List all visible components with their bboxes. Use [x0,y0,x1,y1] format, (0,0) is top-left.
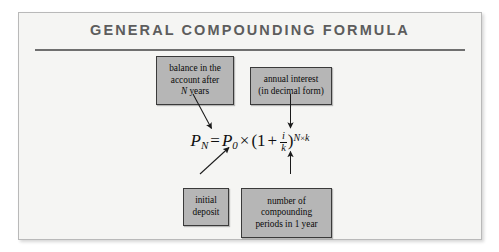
formula-exponent: N×k [294,132,310,143]
callout-deposit-line-1: initial [195,195,217,207]
formula-equals: = [208,131,222,150]
formula-rate-fraction: ik [280,131,287,153]
figure-title: GENERAL COMPOUNDING FORMULA [19,22,481,38]
formula-pn-base: P [191,131,201,150]
callout-balance-line-2: account after [171,75,219,87]
callout-rate-line-2: (in decimal form) [258,86,324,98]
callout-balance-line-3: N years [181,86,209,98]
callout-periods-line-2: compounding [261,207,312,219]
formula-fraction-denominator: k [280,143,287,154]
title-divider [35,49,465,51]
figure-frame: GENERAL COMPOUNDING FORMULA balance in t… [18,12,482,240]
callout-periods-line-3: periods in 1 year [255,219,317,231]
callout-box-rate: annual interest (in decimal form) [250,67,332,105]
formula-p0-subscript: 0 [232,139,238,151]
formula-exponent-k: k [305,132,309,143]
formula-one: 1 [257,131,266,150]
callout-box-periods: number of compounding periods in 1 year [241,188,332,238]
formula-times: × [238,131,252,150]
callout-rate-line-1: annual interest [264,74,318,86]
callout-box-balance: balance in the account after N years [156,56,234,105]
compounding-formula-figure: GENERAL COMPOUNDING FORMULA balance in t… [0,0,499,252]
callout-balance-years: years [187,86,209,96]
formula-plus: + [266,131,280,150]
callout-deposit-line-2: deposit [193,207,220,219]
callout-periods-line-1: number of [267,196,305,208]
formula-fraction-numerator: i [280,131,287,143]
formula-expression: PN=P0×(1+ik)N×k [19,131,481,153]
formula-p0-base: P [222,131,232,150]
callout-box-deposit: initial deposit [183,188,229,226]
callout-balance-line-1: balance in the [169,63,221,75]
